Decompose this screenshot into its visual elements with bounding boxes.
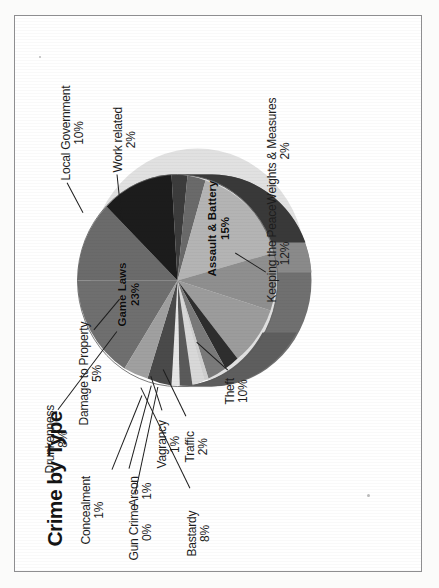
- callout-value: 10%: [73, 86, 86, 181]
- callout-value: 1%: [141, 476, 154, 506]
- callout-bastardy: Bastardy 8%: [186, 511, 213, 557]
- callout-local-government: Local Government 10%: [60, 86, 87, 181]
- callout-label: Keeping the Peace: [265, 204, 279, 302]
- callout-value: 2%: [279, 98, 292, 205]
- callout-value: 1%: [93, 476, 106, 545]
- callout-gun-crime: Gun Crime 0%: [128, 504, 155, 560]
- callout-work-related: Work related 2%: [112, 107, 139, 172]
- callout-label: Gun Crime: [127, 504, 141, 560]
- callout-label: Bastardy: [185, 511, 199, 557]
- slice-label-value: 15%: [219, 217, 231, 240]
- slice-label-assault-battery: Assault & Battery 15%: [206, 173, 232, 285]
- callout-value: 5%: [91, 322, 104, 426]
- callout-label: Drunkenness: [43, 405, 57, 474]
- callout-theft: Theft 10%: [224, 378, 251, 404]
- callout-value: 12%: [279, 204, 292, 302]
- slice-label-text: Game Laws: [116, 263, 128, 327]
- callout-keeping-the-peace: Keeping the Peace 12%: [266, 204, 293, 302]
- callout-label: Damage to Property: [77, 322, 91, 426]
- callout-concealment: Concealment 1%: [80, 476, 107, 545]
- slice-label-text: Assault & Battery: [206, 181, 218, 277]
- callout-label: Work related: [111, 107, 125, 172]
- callout-drunkenness: Drunkenness 8%: [44, 405, 71, 474]
- rotated-content-wrapper: Crime by Type: [16, 16, 424, 573]
- callout-value: 2%: [125, 107, 138, 172]
- scan-speck: [367, 494, 370, 497]
- callout-label: Traffic: [183, 431, 197, 462]
- callout-value: 8%: [199, 511, 212, 557]
- callout-damage-to-property: Damage to Property 5%: [78, 322, 105, 426]
- chart-canvas: Crime by Type: [16, 16, 424, 573]
- scan-speck: [39, 56, 41, 58]
- slice-label-game-laws: Game Laws 23%: [116, 247, 142, 343]
- callout-label: Local Government: [59, 86, 73, 181]
- callout-value: 2%: [197, 431, 210, 462]
- callout-traffic: Traffic 2%: [184, 431, 211, 462]
- page-frame-border: Crime by Type: [14, 15, 422, 572]
- callout-weights-measures: Weights & Measures 2%: [266, 98, 293, 205]
- callout-label: Weights & Measures: [265, 98, 279, 205]
- callout-label: Arson: [127, 476, 141, 506]
- slice-label-value: 23%: [129, 283, 141, 306]
- callout-label: Concealment: [79, 476, 93, 545]
- callout-value: 8%: [57, 405, 70, 474]
- callout-value: 10%: [237, 378, 250, 404]
- callout-value: 0%: [141, 504, 154, 560]
- callout-arson: Arson 1%: [128, 476, 155, 506]
- scanned-page: Crime by Type: [0, 0, 439, 588]
- callout-label: Theft: [223, 378, 237, 404]
